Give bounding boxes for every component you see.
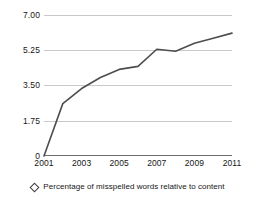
legend-label: Percentage of misspelled words relative … (43, 182, 224, 192)
x-tick-label: 2009 (185, 158, 204, 168)
x-tick-label: 2001 (34, 158, 53, 168)
chart-legend: Percentage of misspelled words relative … (0, 182, 256, 192)
y-tick-label: 1.75 (0, 117, 40, 126)
x-axis: 2001 2003 2005 2007 2009 2011 (44, 158, 232, 172)
y-tick-label: 7.00 (0, 11, 40, 20)
y-tick-label: 5.25 (0, 46, 40, 55)
y-axis: 7.00 5.25 3.50 1.75 0 (0, 0, 40, 170)
x-tick-label: 2007 (147, 158, 166, 168)
x-tick-label: 2011 (223, 158, 242, 168)
series-plot (44, 15, 232, 156)
legend-entry: Percentage of misspelled words relative … (31, 182, 224, 192)
series-line-percentage-misspelled (44, 33, 232, 156)
plot-area (44, 15, 232, 156)
y-tick-label: 3.50 (0, 81, 40, 90)
line-chart-figure: 7.00 5.25 3.50 1.75 0 2001 2003 2005 200… (0, 0, 256, 201)
diamond-marker-icon (30, 182, 40, 192)
x-tick-label: 2005 (110, 158, 129, 168)
x-tick-label: 2003 (72, 158, 91, 168)
